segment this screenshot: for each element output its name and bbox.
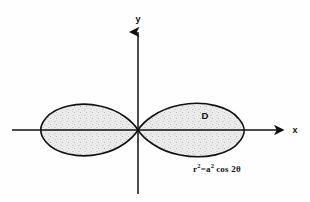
region-label-d: D bbox=[202, 110, 209, 121]
equation-cos: cos 2 bbox=[216, 164, 236, 174]
curve-equation: r2=a2cos 2θ bbox=[193, 164, 241, 174]
figure-svg: y x D bbox=[0, 0, 310, 202]
equation-a-exponent: 2 bbox=[211, 162, 214, 169]
equation-theta: θ bbox=[236, 164, 241, 174]
y-axis-label: y bbox=[135, 14, 140, 24]
lemniscate-figure: y x D r2=a2cos 2θ bbox=[0, 0, 310, 202]
x-axis-label: x bbox=[292, 125, 297, 135]
